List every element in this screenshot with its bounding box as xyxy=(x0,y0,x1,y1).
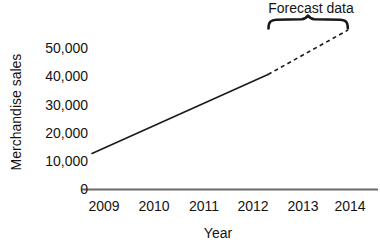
forecast-brace-icon xyxy=(269,16,348,29)
y-tick-label-0: 0 xyxy=(80,182,88,196)
x-tick-label-2012: 2012 xyxy=(230,199,276,213)
x-tick-label-2009: 2009 xyxy=(81,199,127,213)
y-tick-label-20000: 20,000 xyxy=(45,126,88,140)
y-axis-title: Merchandise sales xyxy=(9,52,23,172)
x-tick-label-2011: 2011 xyxy=(181,199,227,213)
forecast-annotation-label: Forecast data xyxy=(256,1,366,15)
actual-data-line xyxy=(92,75,268,154)
x-tick-label-2010: 2010 xyxy=(131,199,177,213)
y-tick-label-50000: 50,000 xyxy=(45,41,88,55)
y-tick-label-10000: 10,000 xyxy=(45,154,88,168)
x-axis-title: Year xyxy=(168,226,268,240)
x-tick-label-2013: 2013 xyxy=(280,199,326,213)
chart-figure: Merchandise sales Year 50,000 40,000 30,… xyxy=(0,0,380,246)
y-tick-label-40000: 40,000 xyxy=(45,69,88,83)
y-tick-label-30000: 30,000 xyxy=(45,98,88,112)
x-tick-label-2014: 2014 xyxy=(327,199,373,213)
forecast-data-line xyxy=(268,30,348,75)
